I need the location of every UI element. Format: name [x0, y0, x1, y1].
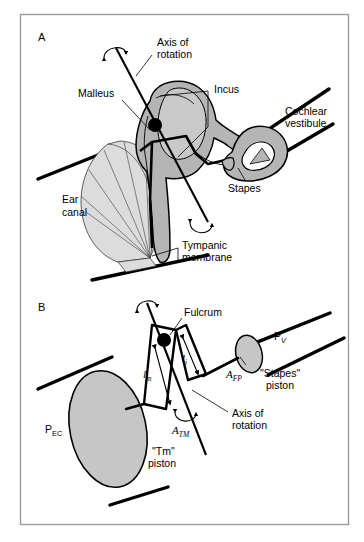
label-stapes-piston-line1: "Stapes": [260, 367, 300, 379]
label-tm-piston-line1: "Tm": [152, 445, 175, 457]
label-cochlear: Cochlear: [285, 105, 328, 117]
pec-sub: EC: [52, 429, 63, 438]
label-tm-piston-line2: piston: [148, 457, 176, 469]
li-sub: i: [185, 358, 187, 367]
label-axis-of-a: Axis of: [157, 36, 189, 48]
label-malleus: Malleus: [78, 87, 114, 99]
label-stapes: Stapes: [228, 182, 261, 194]
label-tympanic: Tympanic: [182, 239, 227, 251]
figure-svg: A: [0, 0, 364, 542]
panel-a-label: A: [38, 31, 46, 43]
label-canal: canal: [62, 206, 87, 218]
label-vestibule: vestibule: [285, 117, 327, 129]
lm-sub: m: [146, 374, 152, 383]
pv-base: P: [274, 330, 281, 342]
panel-b-label: B: [38, 301, 45, 313]
atm-sub: TM: [179, 430, 190, 439]
pec-base: P: [45, 423, 52, 435]
fulcrum-dot-b: [157, 333, 171, 347]
label-axis-of-b: Axis of: [232, 407, 264, 419]
label-ear: Ear: [62, 193, 79, 205]
label-stapes-piston-line2: piston: [266, 379, 294, 391]
incus-inner-lobe: [158, 88, 206, 159]
afp-sub: FP: [232, 374, 243, 383]
label-rotation-b: rotation: [232, 419, 267, 431]
label-membrane: membrane: [182, 251, 232, 263]
figure-container: A: [0, 0, 364, 542]
label-incus: Incus: [214, 83, 239, 95]
label-rotation-a: rotation: [157, 48, 192, 60]
label-fulcrum: Fulcrum: [184, 306, 222, 318]
